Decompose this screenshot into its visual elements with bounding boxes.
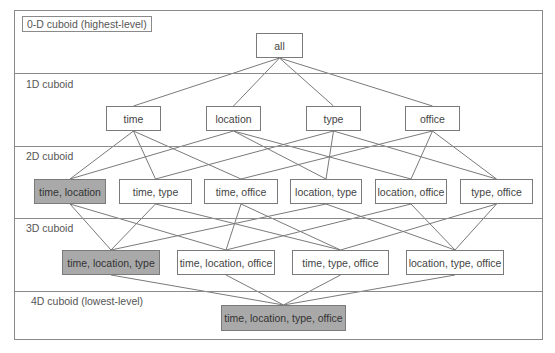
level-divider-3 [14,218,543,219]
node-time-office: time, office [204,179,278,204]
level-label-0d: 0-D cuboid (highest-level) [22,16,152,32]
node-time-type: time, type [119,179,192,204]
level-label-2d: 2D cuboid [26,150,73,162]
node-location: location [206,106,261,131]
cuboid-lattice-diagram: 0-D cuboid (highest-level) 1D cuboid 2D … [0,0,555,353]
node-office: office [405,106,460,131]
level-label-3d: 3D cuboid [26,222,73,234]
node-time-location-type-office: time, location, type, office [221,305,346,331]
node-type-office: type, office [460,179,533,204]
level-divider-2 [14,146,543,147]
level-label-1d: 1D cuboid [26,78,73,90]
node-all: all [256,33,303,58]
level-divider-4 [14,291,543,292]
node-location-office: location, office [375,179,447,204]
node-time-location: time, location [34,179,106,204]
node-type: type [306,106,361,131]
node-time: time [106,106,161,131]
node-time-type-office: time, type, office [292,250,389,275]
node-time-location-type: time, location, type [62,250,160,275]
node-location-type: location, type [290,179,362,204]
level-label-4d: 4D cuboid (lowest-level) [31,295,143,307]
node-location-type-office: location, type, office [406,250,504,275]
level-divider-1 [14,73,543,74]
node-time-location-office: time, location, office [177,250,275,275]
